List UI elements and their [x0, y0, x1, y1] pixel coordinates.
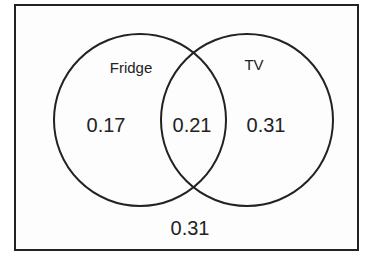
fridge-only-value: 0.17 — [87, 114, 126, 137]
outside-value: 0.31 — [171, 217, 210, 240]
tv-label: TV — [244, 56, 263, 73]
tv-only-value: 0.31 — [247, 114, 286, 137]
fridge-label: Fridge — [110, 59, 153, 76]
intersection-value: 0.21 — [173, 114, 212, 137]
